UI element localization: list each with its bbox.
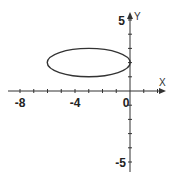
y-tick-label-5: 5 — [118, 14, 125, 28]
x-tick-label-0: 0 — [123, 96, 130, 110]
ellipse-curve — [47, 48, 130, 76]
y-tick-label-neg5: -5 — [115, 156, 126, 170]
x-axis-label: X — [159, 77, 166, 88]
y-axis-arrow-icon — [127, 12, 133, 19]
x-tick-label-neg8: -8 — [15, 96, 26, 110]
x-tick-label-neg4: -4 — [70, 96, 81, 110]
x-axis-arrow-icon — [159, 88, 166, 94]
coordinate-plot: -8 -4 0 5 -5 Y X — [0, 0, 174, 184]
y-axis-label: Y — [134, 11, 141, 22]
